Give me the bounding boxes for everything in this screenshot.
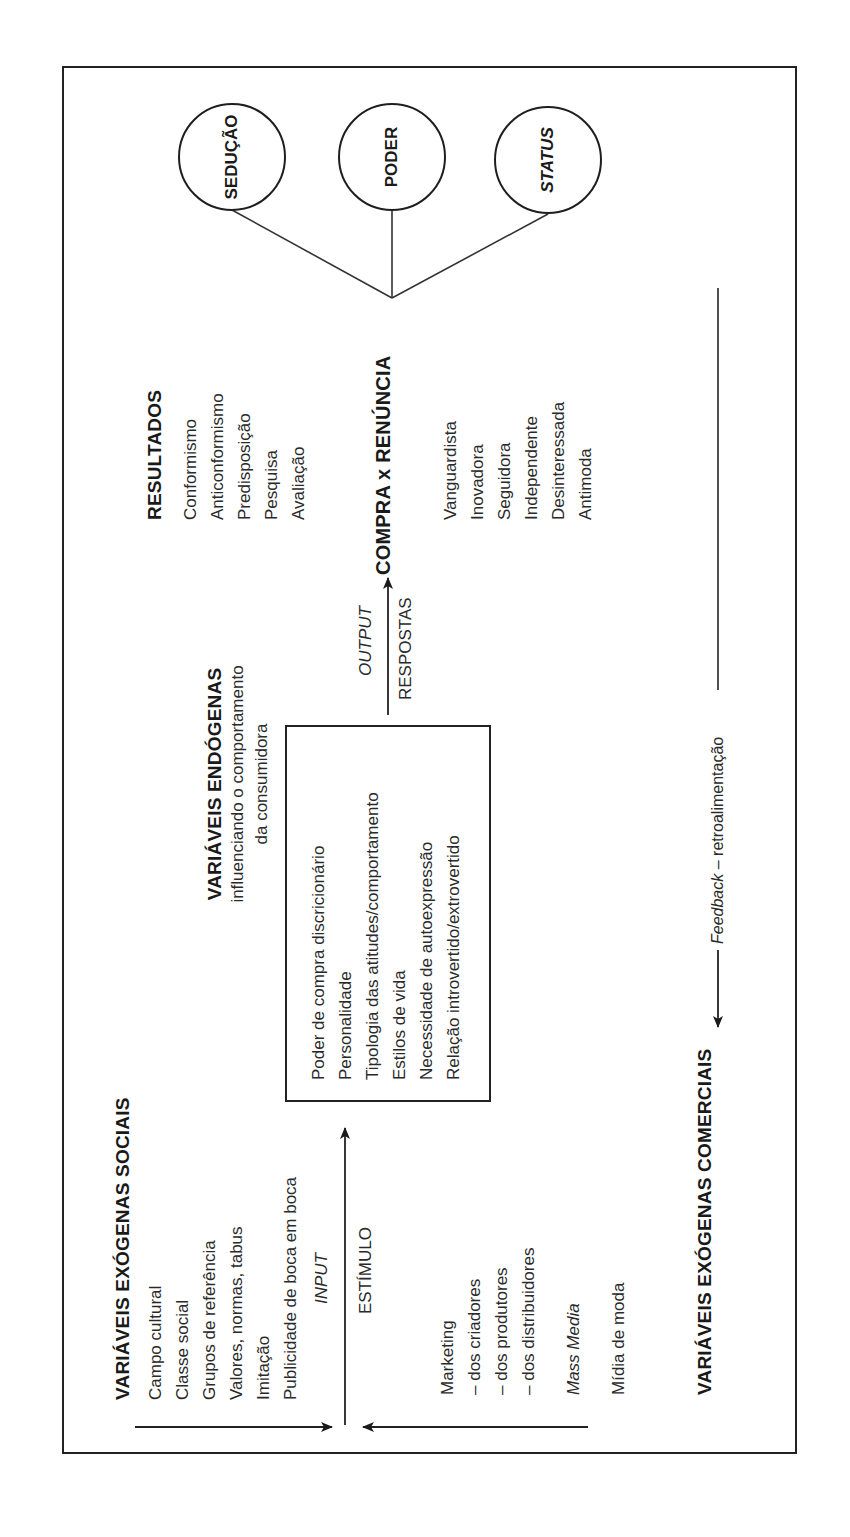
endogenas-title: VARIÁVEIS ENDÓGENAS: [204, 634, 226, 934]
list-item: Desinteressada: [545, 402, 572, 520]
exogenas-comerciais-title: VARIÁVEIS EXÓGENAS COMERCIAIS: [694, 1049, 716, 1395]
outcome-label: SEDUÇÃO: [222, 115, 242, 200]
status-connector: [392, 214, 548, 298]
outcome-label: STATUS: [538, 127, 558, 192]
outcome-label: PODER: [382, 127, 402, 187]
endogenas-subtitle-1: influenciando o comportamento: [226, 634, 250, 934]
list-item: Personalidade: [332, 792, 359, 1080]
compra-renuncia-title: COMPRA x RENÚNCIA: [372, 356, 395, 575]
list-item: Conformismo: [177, 393, 204, 520]
outcome-status: STATUS: [494, 106, 602, 214]
list-item: Inovadora: [464, 402, 491, 520]
outcome-seducao: SEDUÇÃO: [178, 103, 286, 211]
list-item: Classe social: [169, 1177, 196, 1400]
list-item: Poder de compra discricionário: [305, 792, 332, 1080]
list-item: – dos produtores: [488, 1248, 515, 1395]
list-item: Anticonformismo: [204, 393, 231, 520]
list-item: Campo cultural: [142, 1177, 169, 1400]
diagram-canvas: SEDUÇÃO PODER STATUS RESULTADOS Conformi…: [62, 66, 797, 1454]
output-label: OUTPUT: [352, 606, 379, 676]
endogenas-header: VARIÁVEIS ENDÓGENAS influenciando o comp…: [204, 634, 274, 934]
feedback-label: Feedback – retroalimentação: [704, 737, 731, 944]
feedback-italic: Feedback: [709, 874, 726, 944]
list-item: Seguidora: [491, 402, 518, 520]
list-item: Predisposição: [231, 393, 258, 520]
list-item: Vanguardista: [437, 402, 464, 520]
respostas-label: RESPOSTAS: [392, 597, 419, 700]
midia-item: Mídia de moda: [605, 1248, 632, 1395]
mass-media-item: Mass Media: [560, 1248, 587, 1395]
exogenas-sociais-list: Campo cultural Classe social Grupos de r…: [142, 1177, 304, 1400]
endogenas-box: Poder de compra discricionário Personali…: [285, 725, 491, 1102]
list-item: Valores, normas, tabus: [223, 1177, 250, 1400]
list-item: Relação introvertido/extrovertido: [440, 792, 467, 1080]
marketing-item: Marketing: [434, 1248, 461, 1395]
exogenas-sociais-title: VARIÁVEIS EXÓGENAS SOCIAIS: [112, 1097, 134, 1400]
endogenas-subtitle-2: da consumidora: [250, 634, 274, 934]
list-item: Avaliação: [285, 393, 312, 520]
consumer-types-list: Vanguardista Inovadora Seguidora Indepen…: [437, 402, 599, 520]
list-item: Antimoda: [572, 402, 599, 520]
list-item: Publicidade de boca em boca: [277, 1177, 304, 1400]
seducao-connector: [232, 210, 392, 298]
feedback-rest: – retroalimentação: [709, 737, 726, 874]
list-item: Grupos de referência: [196, 1177, 223, 1400]
list-item: Estilos de vida: [386, 792, 413, 1080]
resultados-list: Conformismo Anticonformismo Predisposiçã…: [177, 393, 312, 520]
list-item: Tipologia das atitudes/comportamento: [359, 792, 386, 1080]
resultados-title: RESULTADOS: [144, 390, 166, 520]
exogenas-comerciais-list: Marketing – dos criadores – dos produtor…: [434, 1248, 632, 1395]
list-item: – dos distribuidores: [515, 1248, 542, 1395]
list-item: Imitação: [250, 1177, 277, 1400]
list-item: – dos criadores: [461, 1248, 488, 1395]
list-item: Necessidade de autoexpressão: [413, 792, 440, 1080]
endogenas-list: Poder de compra discricionário Personali…: [305, 792, 467, 1080]
estimulo-label: ESTÍMULO: [352, 1227, 379, 1314]
list-item: Pesquisa: [258, 393, 285, 520]
input-label: INPUT: [308, 1253, 335, 1304]
outcome-poder: PODER: [338, 103, 446, 211]
list-item: Independente: [518, 402, 545, 520]
